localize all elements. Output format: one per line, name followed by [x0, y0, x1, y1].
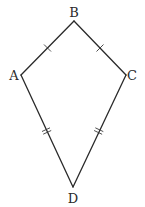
kite-diagram: B A C D — [0, 0, 145, 207]
edge-cd — [73, 75, 126, 187]
vertex-label-b: B — [69, 5, 79, 20]
edge-da — [21, 75, 73, 187]
vertex-label-a: A — [8, 68, 19, 83]
vertex-label-d: D — [68, 191, 78, 206]
vertex-label-c: C — [127, 68, 137, 83]
